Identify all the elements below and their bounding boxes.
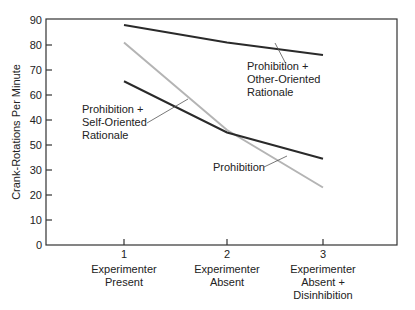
series-annotation-label: Rationale bbox=[82, 129, 128, 141]
series-annotation-label: Prohibition + bbox=[247, 60, 308, 72]
x-category-label: Experimenter bbox=[290, 263, 356, 275]
series-annotation-label: Self-Oriented bbox=[82, 116, 147, 128]
x-category-label: Experimenter bbox=[194, 263, 260, 275]
y-axis: 0102030504060708090 bbox=[30, 14, 52, 251]
y-tick-label: 80 bbox=[30, 39, 42, 51]
x-tick-number: 2 bbox=[224, 248, 230, 260]
series-annotation-label: Other-Oriented bbox=[247, 73, 320, 85]
series-annotation-label: Prohibition bbox=[213, 161, 265, 173]
x-tick-number: 1 bbox=[121, 248, 127, 260]
series-line bbox=[124, 25, 323, 55]
x-category-label: Present bbox=[105, 276, 143, 288]
x-category-label: Experimenter bbox=[91, 263, 157, 275]
y-tick-label: 90 bbox=[30, 14, 42, 26]
y-tick-label: 30 bbox=[30, 164, 42, 176]
x-category-label: Disinhibition bbox=[293, 289, 352, 301]
y-tick-label: 50 bbox=[30, 139, 42, 151]
x-axis: 1ExperimenterPresent2ExperimenterAbsent3… bbox=[91, 239, 356, 301]
y-tick-label: 10 bbox=[30, 214, 42, 226]
y-tick-label: 60 bbox=[30, 89, 42, 101]
series-annotation-label: Rationale bbox=[247, 86, 293, 98]
line-chart: 0102030504060708090 1ExperimenterPresent… bbox=[0, 0, 415, 310]
y-tick-label: 40 bbox=[30, 114, 42, 126]
annotation-leader bbox=[264, 156, 287, 167]
x-category-label: Absent bbox=[210, 276, 244, 288]
series-annotation-label: Prohibition + bbox=[82, 103, 143, 115]
y-tick-label: 0 bbox=[36, 239, 42, 251]
x-category-label: Absent + bbox=[301, 276, 345, 288]
x-tick-number: 3 bbox=[320, 248, 326, 260]
y-tick-label: 20 bbox=[30, 189, 42, 201]
y-axis-label: Crank-Rotations Per Minute bbox=[10, 64, 22, 200]
y-tick-label: 70 bbox=[30, 64, 42, 76]
